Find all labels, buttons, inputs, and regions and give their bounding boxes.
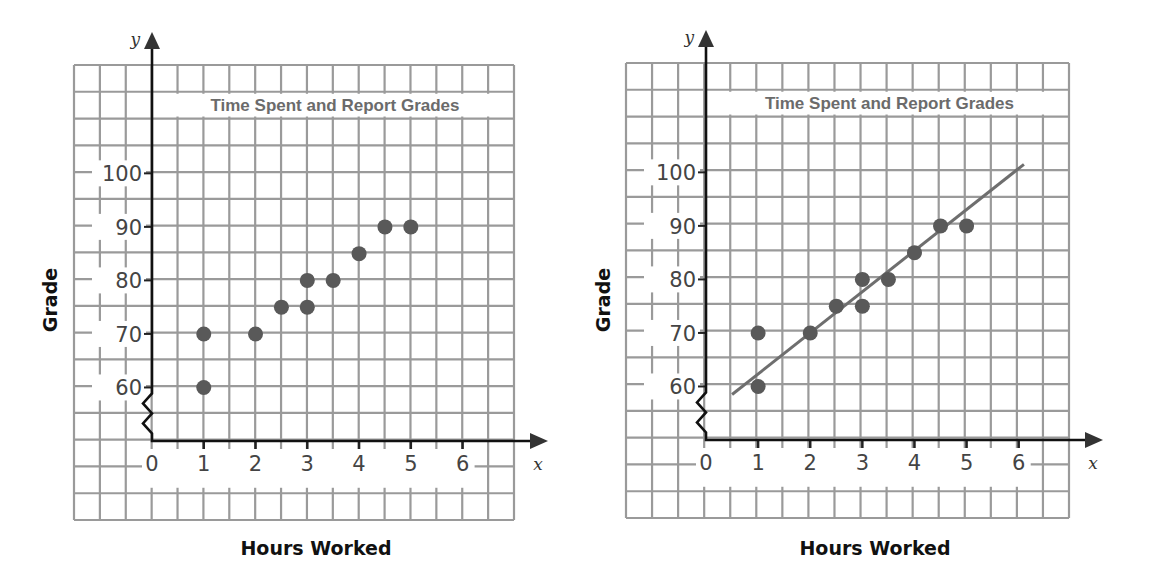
- x-axis-letter: x: [1088, 453, 1098, 473]
- data-point: [933, 218, 948, 233]
- x-arrow-icon: [1085, 432, 1103, 448]
- x-axis-label: Hours Worked: [799, 537, 950, 559]
- chart-panel-right: Time Spent and Report Grades607080901000…: [0, 0, 575, 581]
- data-point: [829, 299, 844, 314]
- y-tick-label: 80: [669, 268, 696, 292]
- data-point: [803, 325, 818, 340]
- scatter-plot-right: Time Spent and Report Grades607080901000…: [0, 0, 1151, 581]
- data-point: [855, 299, 870, 314]
- x-tick-label: 2: [804, 451, 817, 475]
- data-point: [959, 218, 974, 233]
- data-point: [751, 379, 766, 394]
- y-tick-label: 90: [669, 215, 696, 239]
- x-tick-label: 5: [960, 451, 973, 475]
- x-tick-label: 3: [856, 451, 869, 475]
- y-axis-letter: y: [683, 27, 694, 47]
- data-points: [751, 218, 974, 394]
- data-point: [855, 272, 870, 287]
- x-tick-label: 0: [699, 451, 712, 475]
- data-point: [907, 245, 922, 260]
- y-tick-label: 60: [669, 375, 696, 399]
- y-axis-label: Grade: [592, 268, 614, 332]
- data-point: [751, 325, 766, 340]
- y-tick-label: 70: [669, 322, 696, 346]
- y-arrow-icon: [698, 30, 714, 47]
- x-tick-label: 6: [1012, 451, 1025, 475]
- chart-title: Time Spent and Report Grades: [765, 94, 1014, 113]
- data-point: [881, 272, 896, 287]
- trend-line: [732, 164, 1024, 394]
- x-tick-label: 1: [751, 451, 764, 475]
- x-tick-label: 4: [908, 451, 921, 475]
- y-tick-label: 100: [656, 161, 696, 185]
